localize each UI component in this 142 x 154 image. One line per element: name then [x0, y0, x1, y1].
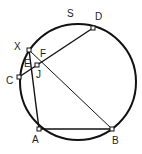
- point-label-j: J: [36, 69, 41, 80]
- point-label-x: X: [14, 41, 21, 52]
- label-f: F: [40, 48, 46, 59]
- point-b-marker: [110, 127, 114, 131]
- point-label-d: D: [95, 11, 102, 22]
- point-c-marker: [17, 75, 21, 79]
- point-a-marker: [37, 127, 41, 131]
- label-s: S: [67, 8, 74, 19]
- point-label-c: C: [6, 75, 13, 86]
- segments-group: [19, 28, 112, 129]
- geometry-diagram: XDCABJSEF: [0, 0, 142, 154]
- point-label-a: A: [32, 134, 39, 145]
- point-x-marker: [27, 48, 31, 52]
- circle: [20, 24, 136, 140]
- point-j-marker: [35, 63, 39, 67]
- point-label-b: B: [112, 135, 119, 146]
- label-e: E: [24, 58, 31, 69]
- point-d-marker: [91, 26, 95, 30]
